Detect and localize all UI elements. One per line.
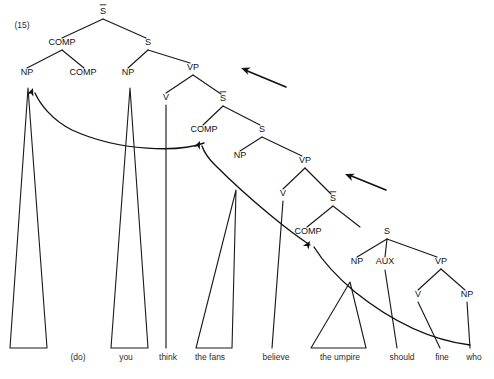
tree-branch bbox=[441, 269, 465, 290]
np-you bbox=[111, 88, 148, 348]
believe-stem bbox=[272, 201, 283, 348]
node-label-s: S bbox=[145, 37, 151, 47]
pointer-lower bbox=[349, 175, 386, 190]
node-label-vp: VP bbox=[435, 256, 447, 266]
node-label-aux: AUX bbox=[376, 256, 395, 266]
tree-branch bbox=[387, 239, 437, 257]
terminal-word: you bbox=[119, 352, 133, 362]
who-stem bbox=[467, 302, 470, 348]
tree-branch bbox=[305, 168, 331, 194]
node-label-sbar: S bbox=[330, 193, 336, 203]
tree-branch bbox=[262, 137, 302, 156]
tree-branch bbox=[333, 206, 360, 227]
tree-branch bbox=[357, 239, 387, 257]
node-label-v: V bbox=[280, 188, 286, 198]
np-the-fans bbox=[196, 190, 236, 348]
tree-branch bbox=[128, 50, 148, 68]
tree-branch bbox=[27, 50, 62, 68]
node-label-np: NP bbox=[351, 256, 364, 266]
terminal-word: believe bbox=[263, 352, 290, 362]
terminal-word: the umpire bbox=[320, 352, 360, 362]
fine-stem bbox=[418, 302, 440, 348]
tree-branch bbox=[385, 239, 387, 257]
node-label-s: S bbox=[384, 226, 390, 236]
syntax-tree-diagram: SCOMPNPCOMPSNPVPVSCOMPSNPVPVSCOMPSNPAUXV… bbox=[0, 0, 494, 379]
tree-branch bbox=[203, 106, 223, 125]
terminal-word: think bbox=[159, 352, 178, 362]
pointer-upper bbox=[245, 70, 286, 87]
node-label-vp: VP bbox=[187, 62, 199, 72]
node-label-vp: VP bbox=[299, 155, 311, 165]
node-label-s: S bbox=[259, 124, 265, 134]
should-stem bbox=[385, 270, 397, 348]
terminal-words-group: (do)youthinkthe fansbelievethe umpiresho… bbox=[70, 352, 482, 362]
node-label-v: V bbox=[163, 92, 169, 102]
example-number: (15) bbox=[14, 20, 29, 30]
tree-canvas: SCOMPNPCOMPSNPVPVSCOMPSNPVPVSCOMPSNPAUXV… bbox=[0, 0, 494, 379]
np-the-umpire bbox=[311, 282, 366, 348]
node-label-sbar: S bbox=[100, 6, 106, 16]
node-label-v: V bbox=[415, 289, 421, 299]
np-trace-do bbox=[10, 88, 47, 348]
node-label-comp: COMP bbox=[49, 37, 76, 47]
tree-branch bbox=[418, 269, 441, 290]
node-label-comp: COMP bbox=[70, 67, 97, 77]
tree-branch bbox=[166, 75, 193, 93]
pointer-lower-arrowhead-icon bbox=[344, 170, 355, 180]
node-label-comp: COMP bbox=[191, 124, 218, 134]
movement-arcs-group bbox=[27, 87, 470, 345]
arc-comp2-to-spec1 bbox=[35, 93, 204, 149]
terminal-word: (do) bbox=[70, 352, 85, 362]
node-labels-group: SCOMPNPCOMPSNPVPVSCOMPSNPVPVSCOMPSNPAUXV… bbox=[21, 5, 474, 299]
node-label-np: NP bbox=[234, 150, 247, 160]
tree-branch bbox=[103, 19, 146, 38]
arc-comp3-to-comp2-arrowhead-icon bbox=[194, 140, 203, 150]
node-label-np: NP bbox=[461, 289, 474, 299]
tree-branch bbox=[62, 50, 84, 68]
terminal-word: should bbox=[389, 352, 414, 362]
terminal-word: fine bbox=[435, 352, 449, 362]
terminal-word: the fans bbox=[195, 352, 225, 362]
node-label-sbar: S bbox=[220, 93, 226, 103]
tree-branch bbox=[283, 168, 305, 189]
pointer-upper-arrowhead-icon bbox=[240, 64, 251, 74]
tree-branch bbox=[223, 106, 260, 125]
tree-branch bbox=[307, 206, 333, 227]
tree-branch bbox=[148, 50, 190, 63]
tree-branch bbox=[193, 75, 221, 94]
example-number-group: (15) bbox=[14, 20, 29, 30]
node-label-comp: COMP bbox=[295, 226, 322, 236]
terminal-word: who bbox=[465, 352, 482, 362]
tree-branch bbox=[240, 137, 262, 151]
tree-branch bbox=[62, 19, 103, 38]
node-label-np: NP bbox=[122, 67, 135, 77]
np-triangles-group bbox=[10, 88, 366, 348]
node-label-np: NP bbox=[21, 67, 34, 77]
